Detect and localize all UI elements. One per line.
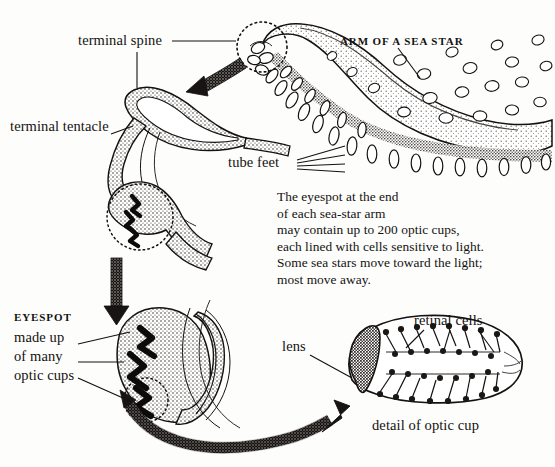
label-tube-feet: tube feet	[228, 155, 279, 170]
label-retinal-cells: retinal cells	[414, 313, 483, 328]
leader-eyespot-1	[78, 332, 130, 344]
leader-tube-feet-1	[297, 146, 345, 160]
leader-tube-feet-4	[297, 169, 345, 172]
leader-retinal-2	[444, 330, 450, 350]
caption-text: The eyespot at the end of each sea-star …	[277, 189, 549, 289]
leader-retinal-3	[478, 330, 494, 352]
leader-tube-feet-3	[297, 164, 345, 166]
label-eyespot-line1: made up	[14, 330, 64, 345]
label-eyespot-caps: EYESPOT	[14, 312, 72, 323]
label-eyespot-line3: optic cups	[14, 368, 74, 383]
label-terminal-spine: terminal spine	[78, 33, 162, 48]
label-eyespot-line2: of many	[14, 349, 63, 364]
sea-star-eyespot-figure: terminal spine terminal tentacle ARM OF …	[0, 0, 555, 467]
leader-retinal-1	[406, 330, 424, 348]
leader-eyespot-3	[78, 378, 132, 402]
leader-arm-of-sea-star	[398, 48, 420, 78]
leader-terminal-tentacle	[111, 126, 133, 134]
leader-tube-feet-2	[297, 155, 345, 163]
leader-lens	[310, 355, 352, 378]
label-lens: lens	[282, 339, 306, 354]
label-terminal-tentacle: terminal tentacle	[10, 119, 109, 134]
label-arm-of-a-sea-star: ARM OF A SEA STAR	[340, 36, 464, 47]
label-detail-of-optic-cup: detail of optic cup	[372, 418, 479, 433]
